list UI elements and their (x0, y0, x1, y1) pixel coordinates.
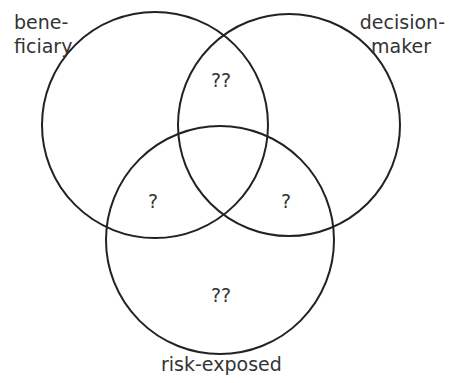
risk-exposed-label: risk-exposed (161, 352, 282, 376)
risk-exposed-circle (106, 126, 334, 354)
decision-maker-label-line-1: decision- (360, 10, 445, 34)
beneficiary-label-line-1: bene- (14, 10, 72, 34)
beneficiary-label-line-2: ficiary (14, 34, 72, 58)
region-beneficiary-risk-exposed: ? (148, 190, 158, 212)
decision-maker-label: decision- maker (360, 10, 445, 58)
decision-maker-label-line-2: maker (360, 34, 445, 58)
region-decision-maker-risk-exposed: ? (281, 190, 291, 212)
region-risk-exposed-only: ?? (211, 284, 231, 306)
risk-exposed-label-line-1: risk-exposed (161, 352, 282, 376)
beneficiary-label: bene- ficiary (14, 10, 72, 58)
region-beneficiary-decision-maker: ?? (211, 69, 231, 91)
